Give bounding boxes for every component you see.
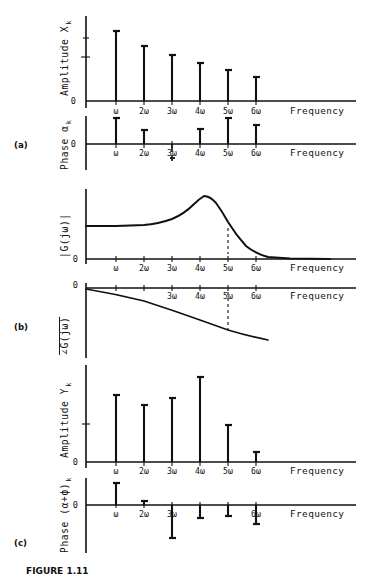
panel-b-mag-xtick-labels: ω 2ω 3ω 4ω 5ω 6ω [114, 263, 261, 273]
xtick-1w: ω [114, 509, 119, 519]
panel-a-amp-y-label: Amplitude Xk [59, 20, 73, 96]
panel-a-amp-stems [113, 31, 260, 101]
panel-a-phase-stems [113, 118, 260, 161]
xtick-4w: 4ω [195, 148, 205, 158]
panel-b-mag-freq-label: Frequency [290, 262, 344, 273]
panel-a-phase-xtick-labels: ω 2ω 3ω 4ω 5ω 6ω [114, 148, 261, 158]
panel-b-phase-y-label: ∠G(jω) [59, 317, 70, 355]
xtick-2w: 2ω [139, 148, 149, 158]
xtick-2w: 2ω [139, 466, 149, 476]
panel-c-amp-stems [113, 377, 260, 462]
xtick-3w: 3ω [167, 291, 177, 301]
figure-caption: FIGURE 1.11 [26, 566, 89, 576]
panel-c-amp-freq-label: Frequency [290, 465, 344, 476]
xtick-5w: 5ω [223, 263, 233, 273]
panel-b-mag-y-label: |G(jω)| [59, 213, 71, 258]
panel-a-amp-freq-label: Frequency [290, 105, 344, 116]
xtick-3w: 3ω [167, 466, 177, 476]
xtick-3w: 3ω [167, 509, 177, 519]
panel-b-phase-freq-label: Frequency [290, 290, 344, 301]
xtick-4w: 4ω [195, 263, 205, 273]
xtick-3w: 3ω [167, 263, 177, 273]
panel-c-amp-xtick-labels: ω 2ω 3ω 4ω 5ω 6ω [114, 466, 261, 476]
xtick-5w: 5ω [223, 466, 233, 476]
xtick-1w: ω [114, 466, 119, 476]
signal-spectra-figure: 0 [0, 0, 365, 577]
xtick-2w: 2ω [139, 263, 149, 273]
panel-a-phase-plot: 0 [14, 116, 356, 170]
xtick-4w: 4ω [195, 291, 205, 301]
panel-a-phase-zero-label: 0 [71, 139, 76, 149]
panel-c-amplitude-plot: 0 [59, 365, 356, 476]
panel-b-phase-zero-label: 0 [73, 280, 78, 290]
figure-container: 0 [0, 0, 365, 577]
xtick-3w: 3ω [167, 148, 177, 158]
xtick-5w: 5ω [223, 291, 233, 301]
xtick-6w: 6ω [251, 509, 261, 519]
xtick-2w: 2ω [139, 509, 149, 519]
panel-c-phase-stems [113, 483, 260, 538]
xtick-5w: 5ω [223, 106, 233, 116]
panel-a-amp-zero-label: 0 [71, 96, 76, 106]
magnitude-response-curve [86, 196, 330, 259]
xtick-1w: ω [114, 106, 119, 116]
xtick-6w: 6ω [251, 291, 261, 301]
panel-a-amp-xtick-labels: ω 2ω 3ω 4ω 5ω 6ω [114, 106, 261, 116]
panel-c-phase-zero-label: 0 [73, 500, 78, 510]
panel-b-mag-zero-label: 0 [73, 254, 78, 264]
panel-a-amplitude-plot: 0 [59, 16, 356, 116]
panel-c-phase-freq-label: Frequency [290, 508, 344, 519]
phase-response-curve [86, 289, 268, 340]
xtick-1w: ω [114, 263, 119, 273]
xtick-6w: 6ω [251, 148, 261, 158]
panel-label-c: (c) [14, 538, 27, 548]
panel-b-magnitude-plot: 0 ω 2ω 3ω 4ω 5ω 6ω Frequency |G(jω)| [59, 189, 356, 273]
xtick-4w: 4ω [195, 106, 205, 116]
xtick-6w: 6ω [251, 466, 261, 476]
panel-c-phase-xtick-labels: ω 2ω 3ω 6ω [114, 509, 261, 519]
panel-label-a: (a) [14, 140, 28, 150]
xtick-5w: 5ω [223, 148, 233, 158]
panel-c-phase-plot: 0 [14, 477, 356, 553]
panel-label-b: (b) [14, 322, 28, 332]
panel-a-phase-freq-label: Frequency [290, 147, 344, 158]
panel-b-phase-plot: 0 3ω 4ω 5ω 6ω Frequency ∠G(jω) (b) [14, 280, 356, 358]
panel-c-phase-y-label: Phase (α+ϕ)k [59, 477, 73, 553]
xtick-4w: 4ω [195, 466, 205, 476]
xtick-2w: 2ω [139, 106, 149, 116]
panel-b-phase-xtick-labels: 3ω 4ω 5ω 6ω [167, 291, 261, 301]
panel-c-amp-y-label: Amplitude Yk [59, 382, 73, 458]
xtick-6w: 6ω [251, 106, 261, 116]
xtick-6w: 6ω [251, 263, 261, 273]
panel-c-amp-zero-label: 0 [73, 457, 78, 467]
xtick-3w: 3ω [167, 106, 177, 116]
xtick-1w: ω [114, 148, 119, 158]
